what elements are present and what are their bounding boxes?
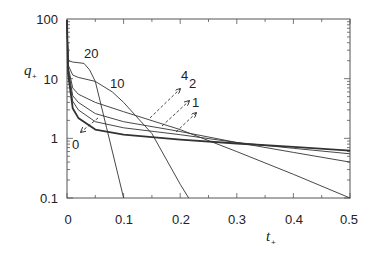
- annotation-arrows: [81, 89, 196, 132]
- curve-label-2: 2: [189, 76, 196, 91]
- curve-label-20: 20: [84, 46, 98, 61]
- x-tick-0.4: 0.4: [285, 212, 303, 227]
- x-tick-0.2: 0.2: [172, 212, 190, 227]
- curve-label-0: 0: [72, 137, 79, 152]
- arrow-curve-2: [162, 101, 189, 126]
- x-tick-0.1: 0.1: [115, 212, 133, 227]
- y-tick-10: 10: [44, 72, 58, 87]
- y-tick-0.1: 0.1: [40, 191, 58, 206]
- x-tick-0.3: 0.3: [228, 212, 246, 227]
- y-tick-1: 1: [51, 131, 58, 146]
- arrow-curve-4: [150, 89, 180, 118]
- curve-4: [67, 20, 350, 198]
- plot-frame: [67, 19, 350, 198]
- x-tick-0.5: 0.5: [340, 212, 358, 227]
- x-tick-0: 0: [64, 212, 71, 227]
- curve-label-10: 10: [110, 76, 124, 91]
- y-axis-label: q: [24, 62, 32, 78]
- axis-ticks: [67, 19, 350, 198]
- y-tick-100: 100: [36, 12, 58, 27]
- curve-label-1: 1: [192, 95, 199, 110]
- chart: 20 10 4 2 1 0 100 10 1 0.1 0 0.1 0.2 0.3…: [0, 0, 381, 255]
- x-axis-label-sub: +: [271, 238, 276, 247]
- y-axis-label-sub: +: [32, 72, 37, 81]
- curve-label-4: 4: [181, 68, 188, 83]
- data-curves: [67, 20, 350, 198]
